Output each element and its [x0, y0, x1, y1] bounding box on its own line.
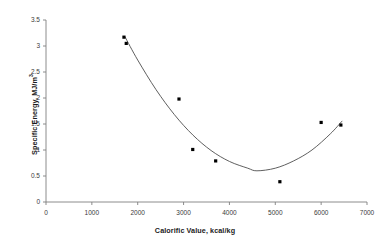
x-tick-label: 3000 [176, 210, 190, 217]
y-axis-title: Specific Energy, MJ/m3 [30, 40, 39, 190]
chart-container: 00.511.522.533.5 01000200030004000500060… [0, 0, 390, 243]
data-point-marker [177, 97, 180, 100]
y-tick-label: 3.5 [14, 17, 40, 24]
data-point-marker [191, 148, 194, 151]
data-point-marker [339, 123, 342, 126]
data-point-marker [214, 159, 217, 162]
data-point-marker [122, 36, 125, 39]
x-tick-label: 5000 [268, 210, 282, 217]
y-axis-title-superscript: 3 [28, 74, 34, 77]
y-tick-label: 0 [14, 199, 40, 206]
x-tick-label: 0 [44, 210, 48, 217]
chart-plot-area [0, 0, 390, 243]
data-points-group [122, 36, 342, 184]
data-point-marker [320, 121, 323, 124]
data-point-marker [125, 42, 128, 45]
data-point-marker [278, 180, 281, 183]
x-tick-label: 1000 [85, 210, 99, 217]
axes-group [46, 20, 367, 202]
x-tick-label: 2000 [130, 210, 144, 217]
x-axis-title: Calorific Value, kcal/kg [0, 226, 390, 235]
fit-curve [125, 37, 342, 171]
x-tick-label: 6000 [314, 210, 328, 217]
x-tick-label: 7000 [360, 210, 374, 217]
y-axis-title-text: Specific Energy, MJ/m [30, 77, 39, 155]
x-tick-label: 4000 [222, 210, 236, 217]
